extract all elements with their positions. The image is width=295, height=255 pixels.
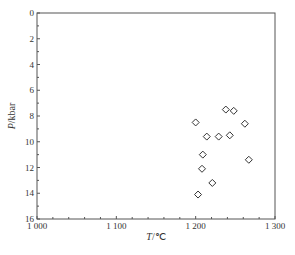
data-point	[245, 156, 252, 163]
data-points	[192, 106, 252, 198]
data-point	[195, 191, 202, 198]
x-axis-ticks: 1 0001 1001 2001 300	[27, 216, 286, 231]
data-point	[192, 119, 199, 126]
data-point	[215, 133, 222, 140]
y-tick-label: 4	[30, 60, 35, 70]
y-axis-ticks: 0246810121416	[25, 8, 40, 224]
y-tick-label: 12	[25, 163, 34, 173]
y-tick-label: 0	[30, 8, 35, 18]
y-axis-label: P/kbar	[6, 102, 17, 130]
y-tick-label: 14	[25, 188, 35, 198]
y-tick-label: 8	[30, 111, 35, 121]
axes	[37, 13, 275, 219]
data-point	[226, 132, 233, 139]
x-tick-label: 1 200	[186, 221, 207, 231]
y-tick-label: 2	[30, 34, 35, 44]
scatter-chart: 1 0001 1001 2001 300 0246810121416 T/℃ P…	[0, 0, 295, 255]
data-point	[209, 179, 216, 186]
data-point	[241, 120, 248, 127]
data-point	[222, 106, 229, 113]
data-point	[230, 107, 237, 114]
data-point	[199, 165, 206, 172]
data-point	[203, 133, 210, 140]
x-tick-label: 1 100	[106, 221, 127, 231]
x-axis-label-unit: /℃	[152, 231, 166, 242]
x-tick-label: 1 300	[265, 221, 286, 231]
y-axis-label-unit: /kbar	[6, 102, 17, 123]
x-axis-label: T/℃	[146, 231, 165, 242]
data-point	[199, 151, 206, 158]
y-tick-label: 10	[25, 137, 35, 147]
y-tick-label: 6	[30, 85, 35, 95]
y-axis-label-var: P	[6, 123, 17, 130]
y-tick-label: 16	[25, 214, 35, 224]
plot-frame	[37, 13, 275, 219]
